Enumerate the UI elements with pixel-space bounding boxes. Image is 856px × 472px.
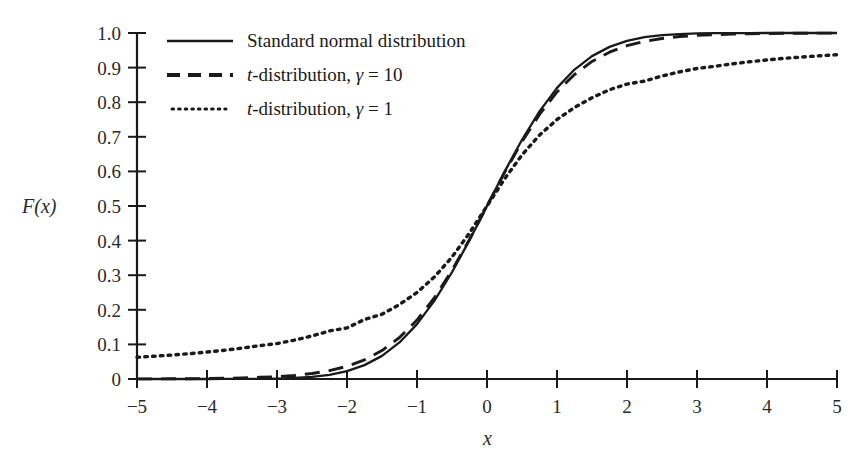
y-tick-label: 0.7 — [97, 128, 121, 147]
y-tick-label: 0.1 — [97, 335, 121, 354]
y-tick-label: 0 — [112, 370, 122, 389]
legend-item-label: -distribution, γ = 1 — [252, 98, 393, 119]
x-tick-label: 3 — [667, 397, 727, 416]
legend-item-3: t-distribution, γ = 1 — [247, 99, 393, 118]
x-tick-label: −1 — [387, 397, 447, 416]
legend-item-label: Standard normal distribution — [247, 30, 465, 51]
legend-line-samples — [167, 41, 233, 109]
series-curve-1 — [137, 33, 837, 379]
y-axis-label: F(x) — [22, 196, 56, 216]
x-tick-label: −2 — [317, 397, 377, 416]
chart-figure: 00.10.20.30.40.50.60.70.80.91.0 −5−4−3−2… — [0, 0, 856, 472]
x-tick-label: −5 — [107, 397, 167, 416]
y-tick-label: 0.2 — [97, 301, 121, 320]
x-axis-label: x — [483, 428, 492, 448]
curve-series — [137, 33, 837, 379]
x-tick-label: 4 — [737, 397, 797, 416]
y-tick-label: 0.6 — [97, 162, 121, 181]
x-axis-label-text: x — [483, 427, 492, 449]
y-tick-label: 0.5 — [97, 197, 121, 216]
y-tick-label: 1.0 — [97, 24, 121, 43]
x-tick-label: 1 — [527, 397, 587, 416]
x-tick-label: 5 — [807, 397, 856, 416]
y-tick-label: 0.3 — [97, 266, 121, 285]
y-axis-label-text: F(x) — [22, 195, 56, 217]
x-tick-label: 2 — [597, 397, 657, 416]
x-tick-label: 0 — [457, 397, 517, 416]
y-tick-label: 0.4 — [97, 232, 121, 251]
legend-item-label: -distribution, γ = 10 — [252, 64, 402, 85]
legend-item-2: t-distribution, γ = 10 — [247, 65, 402, 84]
legend-item-1: Standard normal distribution — [247, 31, 465, 50]
y-tick-label: 0.8 — [97, 93, 121, 112]
x-tick-label: −3 — [247, 397, 307, 416]
y-tick-label: 0.9 — [97, 59, 121, 78]
x-tick-label: −4 — [177, 397, 237, 416]
